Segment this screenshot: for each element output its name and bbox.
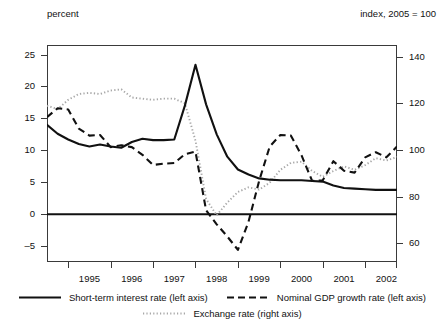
right-y-tick-label: 120 bbox=[409, 99, 425, 109]
legend-item-exchange-rate: Exchange rate (right axis) bbox=[142, 308, 301, 319]
x-tick-mark bbox=[68, 262, 69, 268]
x-tick-mark bbox=[365, 262, 366, 268]
right-y-tick-mark bbox=[397, 103, 403, 104]
left-y-tick-label: 15 bbox=[24, 114, 35, 124]
legend-item-nominal-gdp-growth-rate: Nominal GDP growth rate (left axis) bbox=[226, 292, 426, 303]
plot-area bbox=[47, 45, 397, 262]
left-y-tick-label: 5 bbox=[30, 177, 35, 187]
left-axis-caption: percent bbox=[47, 8, 79, 19]
x-tick-mark bbox=[111, 262, 112, 268]
right-y-tick-label: 100 bbox=[409, 145, 425, 155]
legend-item-short-term-interest-rate: Short-term interest rate (left axis) bbox=[18, 292, 208, 303]
x-tick-label: 2001 bbox=[333, 273, 354, 284]
left-y-tick-label: –5 bbox=[24, 241, 35, 251]
x-tick-label: 1995 bbox=[79, 273, 100, 284]
right-y-tick-label: 80 bbox=[409, 192, 420, 202]
left-y-axis: 2520151050–5 bbox=[0, 45, 47, 262]
series-line-dotted bbox=[47, 89, 397, 215]
left-y-tick-label: 0 bbox=[30, 209, 35, 219]
right-y-axis: 1401201008060 bbox=[397, 45, 444, 262]
dotted-line-icon bbox=[142, 309, 186, 318]
x-tick-label: 2002 bbox=[376, 273, 397, 284]
chart-figure: percent index, 2005 = 100 2520151050–5 1… bbox=[0, 0, 444, 334]
series-line-dashed bbox=[47, 108, 397, 250]
dashed-line-icon bbox=[226, 293, 270, 302]
right-y-tick-label: 60 bbox=[409, 239, 420, 249]
right-y-tick-mark bbox=[397, 197, 403, 198]
x-tick-mark bbox=[323, 262, 324, 268]
legend-label-nominal-gdp-growth-rate: Nominal GDP growth rate (left axis) bbox=[277, 292, 426, 303]
x-tick-mark bbox=[195, 262, 196, 268]
x-tick-label: 1998 bbox=[206, 273, 227, 284]
chart-legend: Short-term interest rate (left axis) Nom… bbox=[0, 292, 444, 324]
left-y-tick-label: 10 bbox=[24, 146, 35, 156]
x-tick-mark bbox=[153, 262, 154, 268]
x-tick-mark bbox=[280, 262, 281, 268]
left-y-tick-label: 20 bbox=[24, 82, 35, 92]
solid-line-icon bbox=[18, 293, 62, 302]
left-y-tick-label: 25 bbox=[24, 50, 35, 60]
legend-label-short-term-interest-rate: Short-term interest rate (left axis) bbox=[69, 292, 208, 303]
x-tick-label: 1997 bbox=[164, 273, 185, 284]
legend-row-primary: Short-term interest rate (left axis) Nom… bbox=[0, 292, 444, 303]
right-y-tick-mark bbox=[397, 150, 403, 151]
x-tick-label: 1999 bbox=[249, 273, 270, 284]
x-tick-label: 1996 bbox=[121, 273, 142, 284]
x-axis: 19951996199719981999200020012002 bbox=[47, 262, 397, 290]
right-y-tick-mark bbox=[397, 57, 403, 58]
right-axis-caption: index, 2005 = 100 bbox=[360, 8, 436, 19]
legend-row-secondary: Exchange rate (right axis) bbox=[0, 308, 444, 319]
x-tick-label: 2000 bbox=[291, 273, 312, 284]
right-y-tick-label: 140 bbox=[409, 52, 425, 62]
right-y-tick-mark bbox=[397, 243, 403, 244]
x-tick-mark bbox=[396, 262, 397, 268]
series-layer bbox=[47, 45, 397, 262]
x-tick-mark bbox=[238, 262, 239, 268]
legend-label-exchange-rate: Exchange rate (right axis) bbox=[193, 308, 301, 319]
